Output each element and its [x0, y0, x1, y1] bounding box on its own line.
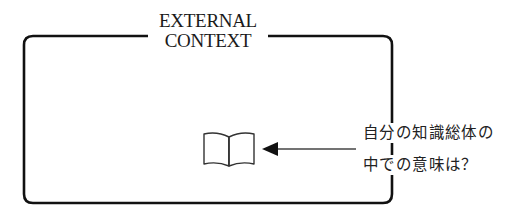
open-book-icon — [204, 133, 254, 166]
container-label-line-1: EXTERNAL — [143, 11, 273, 30]
arrow-head-icon — [262, 142, 278, 156]
diagram-canvas: EXTERNAL CONTEXT 自分の知識総体の 中での意味は？ — [0, 0, 519, 222]
container-label-line-2: CONTEXT — [143, 31, 273, 50]
annotation-line-2: 中での意味は？ — [361, 155, 480, 175]
external-context-box — [24, 36, 392, 203]
arrow — [262, 142, 356, 156]
annotation-line-1: 自分の知識総体の — [361, 123, 496, 143]
